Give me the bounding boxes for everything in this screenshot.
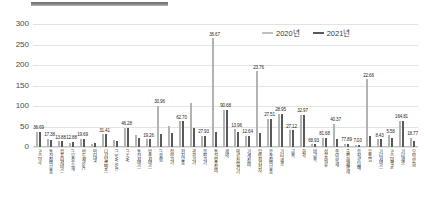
- x-label-cell: 음향기기: [198, 149, 209, 219]
- bar-2021[interactable]: [259, 133, 261, 147]
- bar-group[interactable]: 40.37: [330, 24, 341, 147]
- bar-group[interactable]: 36.67: [209, 24, 220, 147]
- bar-group[interactable]: 22.66: [363, 24, 374, 147]
- data-label: 17.38: [44, 133, 55, 138]
- bar-2021[interactable]: [325, 138, 327, 147]
- bar-2021[interactable]: [105, 134, 107, 147]
- bar-2021[interactable]: [72, 142, 74, 147]
- bar-2021[interactable]: [182, 121, 184, 147]
- bar-group[interactable]: 81.68: [319, 24, 330, 147]
- y-axis-tick: 50: [20, 123, 29, 131]
- bar-group[interactable]: 28.95: [275, 24, 286, 147]
- bar-2021[interactable]: [292, 130, 294, 147]
- bar-2021[interactable]: [193, 128, 195, 147]
- bar-group[interactable]: 17.38: [44, 24, 55, 147]
- x-label-cell: 통신서비스: [132, 149, 143, 219]
- bar-2021[interactable]: [50, 140, 52, 147]
- bar-2021[interactable]: [413, 141, 415, 147]
- gridline: [33, 147, 418, 148]
- bar-2021[interactable]: [160, 134, 162, 147]
- bar-group[interactable]: 19.69: [77, 24, 88, 147]
- bar-group[interactable]: 7.03: [352, 24, 363, 147]
- bar-2021[interactable]: [204, 136, 206, 147]
- bar-2021[interactable]: [336, 139, 338, 147]
- bar-group[interactable]: 27.12: [286, 24, 297, 147]
- data-label: 18.77: [407, 132, 418, 137]
- bar-group[interactable]: [187, 24, 198, 147]
- bar-group[interactable]: 19.26: [143, 24, 154, 147]
- x-axis-label: 기타제조: [399, 149, 404, 164]
- bar-group[interactable]: 68.93: [308, 24, 319, 147]
- x-label-cell: 통신방송장비: [209, 149, 220, 219]
- bar-group[interactable]: 5.58: [385, 24, 396, 147]
- x-axis-label: 유통업: [366, 149, 371, 160]
- data-label: 36.67: [209, 33, 220, 38]
- y-axis-tick: 0: [25, 143, 29, 151]
- bar-2021[interactable]: [281, 114, 283, 147]
- bar-2021[interactable]: [303, 115, 305, 147]
- bar-2021[interactable]: [39, 132, 41, 147]
- bar-2020[interactable]: [212, 38, 214, 147]
- x-label-cell: 금속: [286, 149, 297, 219]
- bar-2021[interactable]: [402, 121, 404, 147]
- bar-group[interactable]: [165, 24, 176, 147]
- x-axis-label: 통신장비·부품: [47, 149, 52, 173]
- x-axis-label: 비금속: [311, 149, 316, 160]
- data-label: 46.28: [121, 122, 132, 127]
- bar-group[interactable]: 13.96: [231, 24, 242, 147]
- bar-2021[interactable]: [127, 128, 129, 147]
- bar-group[interactable]: 12.64: [242, 24, 253, 147]
- redacted-title-bar: [31, 2, 168, 6]
- bar-group[interactable]: 164.81: [396, 24, 407, 147]
- bar-2021[interactable]: [138, 138, 140, 147]
- bar-group[interactable]: 18.77: [407, 24, 418, 147]
- y-axis-tick: 150: [16, 82, 29, 90]
- x-axis-label: IT H/W: [124, 149, 129, 161]
- bar-2021[interactable]: [347, 144, 349, 147]
- bar-group[interactable]: 32.97: [297, 24, 308, 147]
- bar-group[interactable]: 27.51: [264, 24, 275, 147]
- x-label-cell: IT H/W: [121, 149, 132, 219]
- x-label-cell: 기타 제조: [275, 149, 286, 219]
- bar-2021[interactable]: [149, 139, 151, 147]
- bar-2021[interactable]: [226, 110, 228, 147]
- bar-group[interactable]: 62.70: [176, 24, 187, 147]
- bar-2021[interactable]: [391, 138, 393, 147]
- bar-group[interactable]: [110, 24, 121, 147]
- bar-2021[interactable]: [369, 136, 371, 147]
- bar-2021[interactable]: [314, 144, 316, 147]
- bar-group[interactable]: 31.41: [99, 24, 110, 147]
- bar-group[interactable]: 8.43: [374, 24, 385, 147]
- bar-2021[interactable]: [116, 141, 118, 147]
- bar-2021[interactable]: [215, 132, 217, 147]
- bar-group[interactable]: 46.28: [121, 24, 132, 147]
- bar-group[interactable]: 13.88: [55, 24, 66, 147]
- bar-2021[interactable]: [94, 143, 96, 147]
- x-label-cell: 기타서비스: [374, 149, 385, 219]
- bar-2021[interactable]: [358, 145, 360, 147]
- data-label: 30.96: [154, 100, 165, 105]
- x-label-cell: 코스닥 IT: [33, 149, 44, 219]
- x-label-cell: 코스닥평균: [385, 149, 396, 219]
- bar-group[interactable]: [132, 24, 143, 147]
- bar-group[interactable]: 12.88: [66, 24, 77, 147]
- bar-2021[interactable]: [83, 139, 85, 147]
- x-axis-label: 제약: [223, 149, 228, 157]
- bar-group[interactable]: 27.93: [198, 24, 209, 147]
- bar-2021[interactable]: [248, 136, 250, 147]
- data-label: 12.64: [242, 130, 253, 135]
- y-axis-tick: 200: [16, 61, 29, 69]
- bar-2021[interactable]: [237, 132, 239, 147]
- x-axis-label: 음향기기: [201, 149, 206, 164]
- bar-2021[interactable]: [380, 139, 382, 147]
- bar-group[interactable]: 36.69: [33, 24, 44, 147]
- bar-group[interactable]: 23.76: [253, 24, 264, 147]
- bar-group[interactable]: 30.96: [154, 24, 165, 147]
- bar-group[interactable]: [88, 24, 99, 147]
- bar-2021[interactable]: [171, 133, 173, 147]
- bar-group[interactable]: 77.89: [341, 24, 352, 147]
- bar-2021[interactable]: [61, 141, 63, 147]
- x-label-cell: 일반전기전자: [253, 149, 264, 219]
- bar-2021[interactable]: [270, 119, 272, 147]
- bar-group[interactable]: 90.68: [220, 24, 231, 147]
